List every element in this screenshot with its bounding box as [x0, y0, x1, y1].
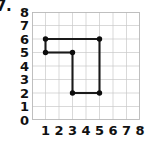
data-point	[97, 90, 102, 95]
y-axis-tick: 8	[13, 6, 29, 19]
plot-svg	[32, 12, 140, 120]
x-axis-tick: 7	[120, 124, 134, 138]
y-axis-tick: 5	[13, 46, 29, 59]
y-axis-tick: 3	[13, 73, 29, 86]
x-axis-tick: 2	[52, 124, 66, 138]
plot-area	[32, 12, 140, 120]
data-point	[70, 90, 75, 95]
y-axis-tick: 6	[13, 33, 29, 46]
problem-number-label: 7.	[0, 0, 11, 14]
y-axis-tick: 4	[13, 60, 29, 73]
y-axis-tick-labels: 876543210	[13, 5, 29, 133]
x-axis-tick-labels: 12345678	[32, 124, 142, 140]
y-axis-tick: 0	[13, 114, 29, 127]
x-axis-tick: 6	[106, 124, 120, 138]
y-axis-tick: 2	[13, 87, 29, 100]
y-axis-tick: 7	[13, 19, 29, 32]
x-axis-tick: 8	[133, 124, 145, 138]
x-axis-tick: 1	[39, 124, 53, 138]
x-axis-tick: 4	[79, 124, 93, 138]
y-axis-tick: 1	[13, 100, 29, 113]
x-axis-tick: 5	[93, 124, 107, 138]
data-point	[70, 50, 75, 55]
data-point	[43, 50, 48, 55]
data-point	[43, 36, 48, 41]
x-axis-tick: 3	[66, 124, 80, 138]
grid-lines	[32, 12, 140, 120]
data-point	[97, 36, 102, 41]
coordinate-grid-figure: 7. 876543210 12345678	[0, 0, 145, 141]
